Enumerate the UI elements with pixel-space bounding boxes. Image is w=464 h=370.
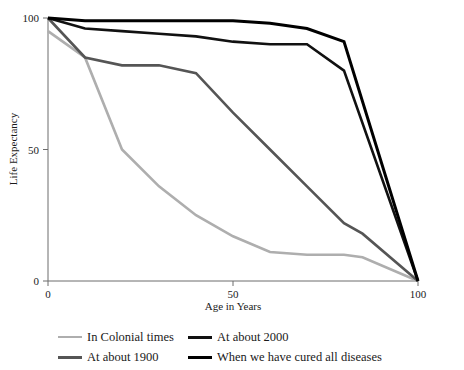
chart-legend: In Colonial times At about 2000 At about…	[58, 327, 458, 367]
legend-item-cured[interactable]: When we have cured all diseases	[188, 351, 458, 364]
x-axis-title: Age in Years	[205, 300, 262, 312]
legend-swatch-1900	[58, 356, 82, 359]
legend-swatch-cured	[188, 356, 212, 359]
chart-canvas: 050100050100 Age in Years Life Expectanc…	[0, 0, 464, 370]
legend-item-2000[interactable]: At about 2000	[188, 331, 458, 344]
y-tick-label-0: 0	[34, 275, 40, 287]
legend-label-colonial: In Colonial times	[87, 331, 174, 344]
chart-series-group	[48, 18, 418, 281]
legend-swatch-colonial	[58, 336, 82, 338]
legend-swatch-2000	[188, 336, 212, 339]
chart-axes	[43, 18, 418, 286]
x-tick-label-50: 50	[228, 288, 240, 300]
x-tick-label-0: 0	[45, 288, 51, 300]
series-line-3	[48, 18, 418, 281]
series-line-1	[48, 18, 418, 281]
series-line-0	[48, 31, 418, 281]
y-axis-title: Life Expectancy	[7, 112, 19, 185]
legend-label-2000: At about 2000	[217, 331, 289, 344]
y-tick-label-50: 50	[28, 144, 40, 156]
legend-item-1900[interactable]: At about 1900	[58, 351, 176, 364]
legend-label-cured: When we have cured all diseases	[217, 351, 382, 364]
series-line-2	[48, 18, 418, 281]
legend-label-1900: At about 1900	[87, 351, 159, 364]
legend-item-colonial[interactable]: In Colonial times	[58, 331, 176, 344]
y-tick-label-100: 100	[23, 12, 40, 24]
life-expectancy-chart: 050100050100 Age in Years Life Expectanc…	[0, 0, 464, 370]
x-tick-label-100: 100	[410, 288, 427, 300]
